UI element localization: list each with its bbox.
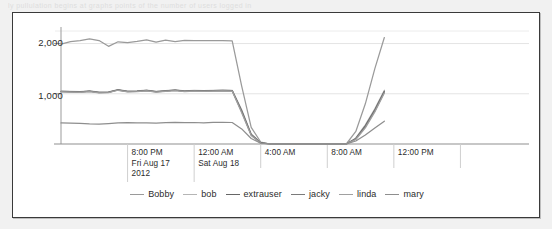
x-tick-date-0: Fri Aug 17: [132, 159, 170, 170]
legend-label-mary: mary: [403, 189, 423, 199]
legend-swatch-mary: [385, 194, 399, 195]
series-line-mary: [61, 121, 384, 144]
top-artifact-text: ly pullulation begins at graphs points o…: [8, 0, 428, 11]
x-tick-time-1: 12:00 AM: [198, 148, 239, 159]
x-tick-date-1: Sat Aug 18: [198, 159, 239, 170]
page-root: ly pullulation begins at graphs points o…: [0, 0, 552, 229]
legend-label-extrauser: extrauser: [244, 189, 282, 199]
legend-swatch-bobby: [130, 194, 144, 195]
x-axis-tick-label-3: 8:00 AM: [331, 148, 362, 159]
x-tick-time-3: 8:00 AM: [331, 148, 362, 159]
series-line-linda: [61, 90, 384, 144]
legend-item-extrauser[interactable]: extrauser: [226, 189, 282, 199]
x-axis-tick-label-0: 8:00 PM Fri Aug 17 2012: [132, 148, 170, 180]
x-axis-tick-label-2: 4:00 AM: [265, 148, 296, 159]
x-tick-time-2: 4:00 AM: [265, 148, 296, 159]
y-axis-label-1000: 1,000: [19, 90, 63, 101]
legend-swatch-linda: [339, 194, 353, 195]
x-axis-tick-label-4: 12:00 PM: [398, 148, 434, 159]
chart-frame: 2,000 1,000 8:00 PM Fri Aug 17 2012 12:0…: [12, 12, 540, 218]
series-line-extrauser: [61, 90, 384, 144]
legend-label-bob: bob: [201, 189, 216, 199]
legend-item-mary[interactable]: mary: [385, 189, 423, 199]
x-tick-time-0: 8:00 PM: [132, 148, 170, 159]
legend-label-jacky: jacky: [309, 189, 330, 199]
plot-area: 2,000 1,000 8:00 PM Fri Aug 17 2012 12:0…: [13, 13, 539, 217]
series-line-jacky: [61, 90, 384, 144]
legend-swatch-jacky: [291, 194, 305, 195]
series-line-bob: [61, 90, 384, 144]
legend-swatch-extrauser: [226, 194, 240, 195]
x-tick-year-0: 2012: [132, 169, 170, 180]
chart-legend: Bobbybobextrauserjackylindamary: [13, 189, 541, 199]
legend-swatch-bob: [183, 194, 197, 195]
legend-label-linda: linda: [357, 189, 377, 199]
legend-item-bob[interactable]: bob: [183, 189, 216, 199]
legend-item-linda[interactable]: linda: [339, 189, 377, 199]
x-axis-tick-label-1: 12:00 AM Sat Aug 18: [198, 148, 239, 169]
y-axis-label-2000: 2,000: [19, 37, 63, 48]
legend-label-bobby: Bobby: [148, 189, 174, 199]
x-tick-time-4: 12:00 PM: [398, 148, 434, 159]
legend-item-bobby[interactable]: Bobby: [130, 189, 174, 199]
legend-item-jacky[interactable]: jacky: [291, 189, 330, 199]
